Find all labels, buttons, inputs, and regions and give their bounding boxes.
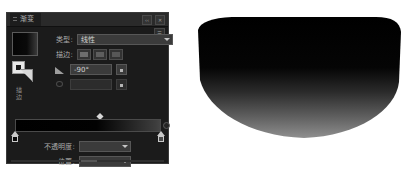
aspect-ratio-input[interactable] — [70, 79, 112, 90]
row-aspect-ratio — [55, 78, 127, 90]
aspect-ratio-stepper[interactable] — [116, 79, 127, 90]
gradient-stop-start[interactable] — [11, 131, 19, 142]
stop-color-swatch — [158, 136, 164, 142]
panel-resize-grip[interactable] — [11, 160, 164, 162]
titlebar-buttons: ‹‹ ✕ — [142, 15, 165, 25]
gradient-angle-input[interactable]: -90° — [70, 64, 112, 75]
row-opacity: 不透明度: — [31, 140, 131, 152]
gradient-type-value: 线性 — [81, 36, 95, 44]
gradient-slider[interactable] — [15, 119, 161, 132]
stroke-swatch-icon[interactable] — [20, 69, 33, 82]
panel-body: 描边 类型: 线性 描边: -90° — [7, 27, 168, 165]
stroke-type-buttons — [77, 49, 123, 60]
stroke-across-icon[interactable] — [109, 49, 123, 60]
chevron-down-icon — [122, 145, 128, 148]
gradient-filled-bowl-shape[interactable] — [186, 6, 414, 156]
gradient-swatch-column: 描边 — [12, 32, 42, 101]
artwork-canvas — [186, 6, 414, 172]
reverse-gradient-icon[interactable] — [116, 64, 127, 75]
tab-grip-icon — [13, 17, 17, 23]
bowl-path — [198, 17, 401, 138]
gradient-preview-swatch[interactable] — [12, 32, 38, 56]
stop-color-swatch — [12, 136, 18, 142]
fill-stroke-label: 描边 — [12, 87, 22, 101]
angle-icon — [55, 65, 65, 74]
gradient-type-dropdown[interactable]: 线性 — [77, 34, 173, 45]
stroke-label: 描边: — [45, 49, 73, 59]
gradient-stop-end[interactable] — [157, 131, 165, 142]
gradient-ramp-bar[interactable] — [15, 119, 161, 132]
aspect-ratio-icon — [55, 80, 65, 89]
row-angle: -90° — [55, 63, 127, 75]
type-label: 类型: — [45, 34, 73, 44]
fill-swatch-icon[interactable] — [12, 61, 25, 74]
stroke-along-icon[interactable] — [93, 49, 107, 60]
collapse-panel-icon[interactable]: ‹‹ — [142, 15, 152, 25]
gradient-panel: 渐变 ‹‹ ✕ ☰ 描边 类型: 线性 描边: — [6, 12, 169, 164]
close-icon[interactable]: ✕ — [155, 15, 165, 25]
gradient-end-knob-icon[interactable] — [163, 122, 170, 129]
row-type: 类型: 线性 — [45, 33, 173, 45]
panel-titlebar[interactable]: 渐变 ‹‹ ✕ — [7, 13, 168, 27]
fill-stroke-indicator[interactable] — [12, 61, 36, 83]
chevron-down-icon — [164, 38, 170, 41]
opacity-input[interactable] — [79, 141, 131, 152]
opacity-label: 不透明度: — [31, 141, 75, 151]
row-stroke: 描边: — [45, 48, 123, 60]
panel-tab-label: 渐变 — [20, 15, 35, 23]
stroke-within-icon[interactable] — [77, 49, 91, 60]
gradient-angle-value: -90° — [74, 66, 89, 74]
panel-tab-gradient[interactable]: 渐变 — [10, 13, 41, 26]
